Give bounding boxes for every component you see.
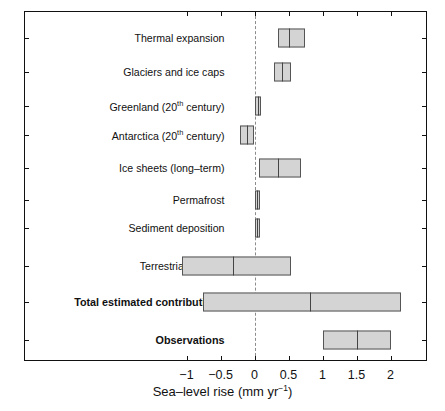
range-bar-center-4	[278, 159, 279, 178]
category-label-text-3: Antarctica (20	[112, 130, 177, 142]
y-tick-right-5	[422, 200, 427, 201]
range-bar-center-6	[257, 219, 258, 238]
y-tick-right-9	[422, 340, 427, 341]
y-tick-left-2	[24, 106, 29, 107]
x-tick-top-1	[221, 11, 222, 16]
y-tick-right-2	[422, 106, 427, 107]
category-label-text-6: Sediment deposition	[129, 222, 225, 234]
category-label-5: Permafrost	[173, 194, 225, 206]
category-label-9: Observations	[155, 334, 224, 346]
y-tick-left-0	[24, 38, 29, 39]
category-label-suffix-3: century)	[183, 130, 224, 142]
x-tick-1	[221, 356, 222, 361]
range-bar-center-8	[310, 293, 311, 312]
y-tick-left-1	[24, 72, 29, 73]
category-label-text-2: Greenland (20	[109, 101, 177, 113]
category-label-0: Thermal expansion	[134, 32, 224, 44]
x-tick-label-0: −1	[179, 368, 193, 382]
category-label-suffix-2: century)	[183, 101, 224, 113]
x-tick-top-6	[391, 11, 392, 16]
range-bar-4	[259, 159, 301, 178]
category-label-text-0: Thermal expansion	[134, 32, 224, 44]
x-tick-3	[289, 356, 290, 361]
range-bar-center-1	[282, 63, 283, 82]
x-tick-2	[255, 356, 256, 361]
range-bar-center-2	[258, 97, 259, 116]
x-axis-title-exponent: −1	[278, 383, 288, 393]
x-axis-title-suffix: )	[288, 384, 292, 399]
y-tick-right-7	[422, 266, 427, 267]
y-tick-left-6	[24, 228, 29, 229]
x-tick-top-0	[187, 11, 188, 16]
x-tick-top-5	[357, 11, 358, 16]
y-tick-left-3	[24, 135, 29, 136]
category-label-text-4: Ice sheets (long–term)	[119, 162, 224, 174]
y-tick-right-3	[422, 135, 427, 136]
category-label-text-9: Observations	[155, 334, 224, 346]
y-tick-right-0	[422, 38, 427, 39]
category-label-4: Ice sheets (long–term)	[119, 162, 224, 174]
category-label-1: Glaciers and ice caps	[123, 66, 224, 78]
x-tick-top-3	[289, 11, 290, 16]
category-label-3: Antarctica (20th century)	[112, 128, 225, 142]
category-label-text-5: Permafrost	[173, 194, 225, 206]
x-tick-label-1: −0.5	[208, 368, 233, 382]
x-tick-top-4	[323, 11, 324, 16]
x-tick-top-2	[255, 11, 256, 16]
x-axis-title: Sea–level rise (mm yr−1)	[0, 383, 445, 399]
x-tick-0	[187, 356, 188, 361]
range-bar-8	[203, 293, 401, 312]
y-tick-left-7	[24, 266, 29, 267]
x-axis-title-prefix: Sea–level rise (mm yr	[153, 384, 279, 399]
y-tick-right-1	[422, 72, 427, 73]
category-label-6: Sediment deposition	[129, 222, 225, 234]
x-tick-label-5: 1.5	[348, 368, 365, 382]
range-bar-center-7	[233, 257, 234, 276]
y-tick-right-6	[422, 228, 427, 229]
range-bar-center-9	[357, 331, 358, 350]
sea-level-rise-chart: −1−0.500.511.52 Thermal expansionGlacier…	[0, 0, 445, 411]
range-bar-center-3	[247, 126, 248, 145]
x-tick-6	[391, 356, 392, 361]
category-label-text-1: Glaciers and ice caps	[123, 66, 224, 78]
x-tick-label-4: 1	[319, 368, 326, 382]
range-bar-7	[182, 257, 291, 276]
range-bar-0	[278, 29, 306, 48]
y-tick-left-4	[24, 168, 29, 169]
y-tick-left-5	[24, 200, 29, 201]
range-bar-center-5	[257, 191, 258, 210]
y-tick-left-8	[24, 302, 29, 303]
range-bar-center-0	[289, 29, 290, 48]
x-tick-label-2: 0	[251, 368, 258, 382]
x-tick-label-3: 0.5	[280, 368, 297, 382]
category-label-2: Greenland (20th century)	[109, 99, 224, 113]
x-tick-4	[323, 356, 324, 361]
y-tick-right-4	[422, 168, 427, 169]
x-tick-5	[357, 356, 358, 361]
y-tick-right-8	[422, 302, 427, 303]
y-tick-left-9	[24, 340, 29, 341]
x-tick-label-6: 2	[387, 368, 394, 382]
